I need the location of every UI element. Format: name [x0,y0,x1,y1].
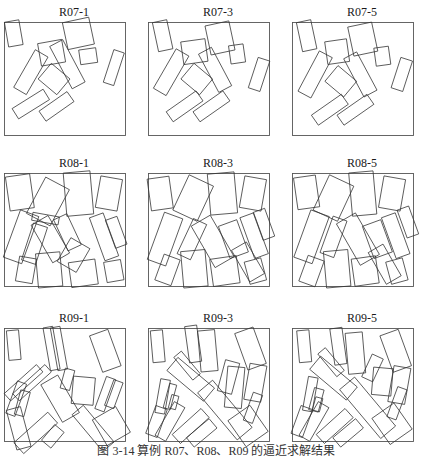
layout-plot [148,328,270,442]
rectangle-piece [57,238,90,273]
rectangle-piece [297,330,312,363]
rectangle-piece [26,177,69,226]
rectangle-piece [205,21,235,55]
panel-title: R08-3 [148,156,288,170]
rectangle-piece [374,46,391,66]
layout-plot [148,173,270,287]
rectangle-piece [14,50,48,95]
panel-r07-5: R07-5 [292,5,432,140]
panel-r08-3: R08-3 [148,156,288,291]
rectangle-piece [193,91,230,122]
rectangle-piece [381,213,410,259]
rectangle-piece [372,403,412,445]
layout-plot [4,173,126,287]
rectangle-piece [349,171,377,216]
rectangle-piece [163,383,177,409]
rectangle-piece [325,66,357,97]
rectangle-piece [325,39,350,65]
panel-r07-3: R07-3 [148,5,288,140]
panel-r09-1: R09-1 [4,311,144,446]
rectangle-piece [330,327,347,365]
rectangle-piece [6,330,21,361]
panel-title: R09-5 [292,311,432,325]
rectangle-piece [12,89,49,119]
rectangle-piece [103,50,124,86]
rectangle-piece [311,94,348,125]
rectangle-piece [351,256,379,286]
rectangle-piece [155,402,185,442]
rectangle-piece [239,176,266,211]
layout-plot [4,328,126,442]
panel-r08-5: R08-5 [292,156,432,291]
rectangle-piece [15,256,36,284]
rectangle-piece [174,351,201,380]
rectangle-piece [379,176,406,211]
rectangle-piece [229,44,246,64]
container-boundary [5,23,126,136]
rectangle-piece [224,366,245,408]
rectangle-piece [95,176,122,211]
panel-title: R07-5 [292,5,432,19]
rectangle-piece [386,258,408,285]
rectangle-piece [41,375,80,422]
panel-title: R07-3 [148,5,288,19]
rectangle-piece [71,376,95,405]
rectangle-piece [79,48,98,65]
container-boundary [149,329,270,442]
rectangle-piece [348,22,378,56]
rectangle-piece [228,405,268,447]
panel-r09-5: R09-5 [292,311,432,446]
rectangle-piece [89,213,118,261]
rectangle-piece [316,409,353,444]
rectangle-piece [345,332,366,374]
rectangle-piece [172,409,209,444]
rectangle-piece [4,365,43,401]
rectangle-piece [186,419,217,447]
rectangle-piece [13,365,52,401]
rectangle-piece [199,47,232,92]
panel-title: R08-5 [292,156,432,170]
panel-r08-1: R08-1 [4,156,144,291]
layout-plot [148,22,270,136]
rectangle-piece [240,213,269,259]
rectangle-piece [336,213,379,265]
rectangle-piece [95,376,116,412]
rectangle-piece [92,407,130,446]
layout-plot [292,328,414,442]
rectangle-piece [5,174,34,211]
rectangle-piece [391,57,412,91]
rectangle-piece [368,244,401,284]
rectangle-piece [337,94,374,125]
rectangle-piece [152,20,173,52]
rectangle-piece [210,256,240,287]
rectangle-piece [39,92,74,122]
rectangle-piece [253,208,275,240]
rectangle-piece [153,49,189,96]
rectangle-piece [198,380,253,440]
rectangle-piece [166,91,203,122]
rectangle-piece [38,39,66,66]
figure-caption: 图 3-14 算例 R07、R08、R09 的逼近求解结果 [0,444,433,458]
layout-plot [292,173,414,287]
rectangle-piece [68,259,98,288]
rectangle-piece [4,20,23,47]
panel-r09-3: R09-3 [148,311,288,446]
layout-plot [292,22,414,136]
rectangle-piece [104,260,124,283]
rectangle-piece [296,20,317,52]
rectangle-piece [173,175,214,222]
rectangle-piece [313,175,354,222]
panel-r07-1: R07-1 [4,5,144,140]
rectangle-piece [150,330,165,363]
rectangle-piece [371,367,393,396]
rectangle-piece [309,388,324,413]
rectangle-piece [291,406,313,438]
rectangle-piece [38,63,70,94]
rectangle-piece [147,176,173,211]
rectangle-piece [105,216,127,248]
rectangle-piece [217,360,239,395]
rectangle-piece [3,210,39,264]
rectangle-piece [177,219,207,260]
rectangle-piece [333,419,364,447]
rectangle-piece [181,63,213,94]
